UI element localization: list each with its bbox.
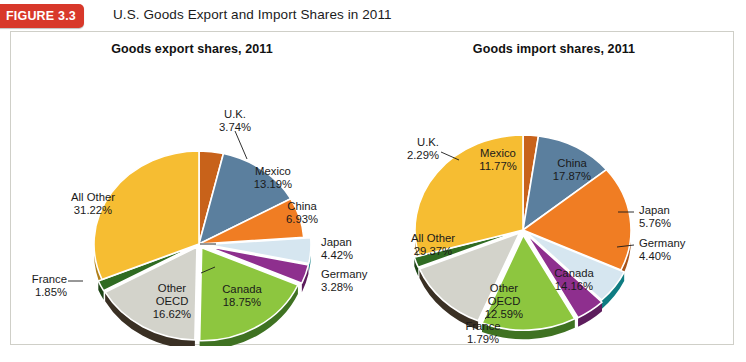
label-all-other-import: All Other 29.37% [395,232,471,258]
figure-title: U.S. Goods Export and Import Shares in 2… [113,7,392,22]
pie-chart-import: U.K. 2.29%Mexico 11.77%China 17.87%Japan… [373,32,735,346]
label-france-export: France 1.85% [11,273,67,299]
label-all-other-export: All Other 31.22% [56,191,130,217]
pie-import-svg: U.K. 2.29%Mexico 11.77%China 17.87%Japan… [373,32,735,346]
panel-import-shares: Goods import shares, 2011 U.K. 2.29%Mexi… [373,32,735,346]
label-mexico-import: Mexico 11.77% [466,147,530,173]
figure-container: FIGURE 3.3 U.S. Goods Export and Import … [0,0,746,362]
figure-frame: Goods export shares, 2011 U.K. 3.74%Mexi… [10,31,734,345]
figure-header: FIGURE 3.3 U.S. Goods Export and Import … [0,4,746,32]
figure-number-label: FIGURE 3.3 [0,9,76,23]
label-canada-export: Canada 18.75% [209,283,275,309]
label-china-import: China 17.87% [539,157,605,183]
label-mexico-export: Mexico 13.19% [242,165,304,191]
label-canada-import: Canada 14.16% [541,267,607,293]
label-germany-import: Germany 4.40% [639,237,707,263]
label-france-import: France 1.79% [451,320,515,346]
label-japan-export: Japan 4.42% [321,236,377,262]
label-other-oecd-export: Other OECD 16.62% [139,282,205,321]
label-uk-export: U.K. 3.74% [205,108,265,134]
figure-number-badge: FIGURE 3.3 [0,4,84,28]
label-china-export: China 6.93% [273,200,331,226]
label-japan-import: Japan 5.76% [639,204,695,230]
label-other-oecd-import: Other OECD 12.59% [471,282,537,321]
panel-export-shares: Goods export shares, 2011 U.K. 3.74%Mexi… [11,32,373,346]
label-uk-import: U.K. 2.29% [383,136,439,162]
